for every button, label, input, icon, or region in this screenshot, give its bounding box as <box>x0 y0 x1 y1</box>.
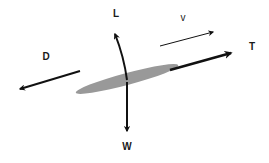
free-body-diagram: L W T D v <box>0 0 269 163</box>
drag-arrow <box>20 71 80 89</box>
drag-label: D <box>42 52 49 62</box>
weight-label: W <box>122 142 131 152</box>
velocity-label: v <box>181 13 186 23</box>
thrust-label: T <box>249 42 255 52</box>
lift-arrow <box>115 34 127 80</box>
thrust-arrow <box>170 53 231 70</box>
diagram-canvas <box>0 0 269 163</box>
velocity-arrow <box>160 32 213 46</box>
lift-label: L <box>113 9 119 19</box>
